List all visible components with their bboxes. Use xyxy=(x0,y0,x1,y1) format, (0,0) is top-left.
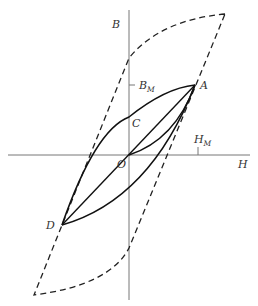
bm-label: BM xyxy=(138,79,155,94)
point-a-label: A xyxy=(199,79,208,92)
hm-label: HM xyxy=(193,133,212,148)
origin-label: O xyxy=(117,158,126,171)
hysteresis-diagram: B H O A C D BM HM xyxy=(0,0,258,306)
point-c-label: C xyxy=(132,117,141,130)
point-d-label: D xyxy=(45,219,55,232)
h-axis-label: H xyxy=(237,158,248,171)
b-axis-label: B xyxy=(111,18,120,31)
